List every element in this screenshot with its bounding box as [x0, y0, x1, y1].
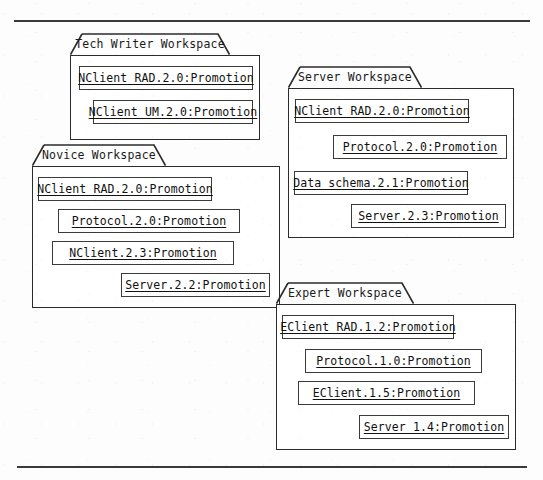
package-item[interactable]: Server.2.2:Promotion	[121, 273, 270, 297]
package-item[interactable]: Server.2.3:Promotion	[351, 204, 506, 228]
package-item[interactable]: EClient RAD.1.2:Promotion	[282, 315, 454, 339]
package-item-label: Server 1.4:Promotion	[364, 420, 504, 434]
figure-top-rule	[14, 20, 530, 22]
package-item[interactable]: Protocol.2.0:Promotion	[333, 135, 507, 159]
package-tab-server-workspace: Server Workspace	[288, 66, 422, 88]
package-item[interactable]: Data schema.2.1:Promotion	[294, 171, 468, 195]
package-item[interactable]: NClient RAD.2.0:Promotion	[38, 177, 212, 201]
figure-bottom-rule	[17, 466, 527, 468]
package-item[interactable]: Protocol.1.0:Promotion	[305, 349, 482, 373]
package-item-label: Protocol.2.0:Promotion	[72, 214, 227, 228]
package-title-server-workspace: Server Workspace	[288, 66, 422, 88]
package-body-novice-workspace: NClient RAD.2.0:PromotionProtocol.2.0:Pr…	[32, 166, 280, 308]
package-title-novice-workspace: Novice Workspace	[32, 144, 166, 166]
package-item-label: NClient UM.2.0:Promotion	[89, 105, 258, 119]
package-item[interactable]: NClient UM.2.0:Promotion	[93, 100, 253, 124]
package-tab-tech-writer-workspace: Tech Writer Workspace	[70, 33, 230, 55]
package-item-label: Data schema.2.1:Promotion	[293, 176, 469, 190]
package-item-label: EClient.1.5:Promotion	[313, 386, 461, 400]
package-item-label: Server.2.3:Promotion	[358, 209, 498, 223]
package-item-label: Protocol.1.0:Promotion	[316, 354, 471, 368]
package-item[interactable]: Protocol.2.0:Promotion	[58, 209, 240, 233]
package-body-server-workspace: NClient RAD.2.0:PromotionProtocol.2.0:Pr…	[288, 88, 514, 238]
package-item-label: NClient RAD.2.0:Promotion	[37, 182, 213, 196]
package-body-tech-writer-workspace: NClient RAD.2.0:PromotionNClient UM.2.0:…	[70, 55, 260, 140]
package-item-label: NClient.2.3:Promotion	[69, 246, 217, 260]
package-body-expert-workspace: EClient RAD.1.2:PromotionProtocol.1.0:Pr…	[276, 304, 516, 450]
package-item-label: NClient RAD.2.0:Promotion	[294, 104, 470, 118]
package-item[interactable]: Server 1.4:Promotion	[359, 415, 509, 439]
package-tab-expert-workspace: Expert Workspace	[276, 282, 414, 304]
package-item[interactable]: EClient.1.5:Promotion	[298, 381, 475, 405]
package-title-expert-workspace: Expert Workspace	[276, 282, 414, 304]
package-item[interactable]: NClient.2.3:Promotion	[52, 241, 234, 265]
package-diagram-canvas: Tech Writer WorkspaceNClient RAD.2.0:Pro…	[0, 0, 543, 480]
package-title-tech-writer-workspace: Tech Writer Workspace	[70, 33, 230, 55]
package-tab-novice-workspace: Novice Workspace	[32, 144, 166, 166]
package-item-label: Server.2.2:Promotion	[125, 278, 265, 292]
package-item-label: EClient RAD.1.2:Promotion	[280, 320, 456, 334]
package-item[interactable]: NClient RAD.2.0:Promotion	[79, 66, 253, 90]
package-item-label: NClient RAD.2.0:Promotion	[78, 71, 254, 85]
package-item-label: Protocol.2.0:Promotion	[343, 140, 498, 154]
package-item[interactable]: NClient RAD.2.0:Promotion	[295, 99, 469, 123]
